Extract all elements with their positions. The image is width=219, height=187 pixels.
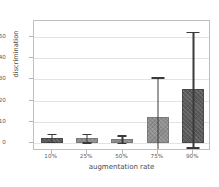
errorbar-cap-bottom-50: [118, 143, 127, 144]
y-tick-label-50: 50: [0, 33, 6, 39]
y-tick-label-10: 10: [0, 118, 6, 124]
plot-area: [33, 20, 210, 150]
y-tick-label-20: 20: [0, 97, 6, 103]
bar-group-50: [105, 21, 140, 149]
bar-group-90: [176, 21, 210, 149]
x-tick-label-90: 90%: [170, 153, 214, 159]
bar-group-10: [34, 21, 69, 149]
errorbar-cap-bottom-10: [47, 142, 56, 143]
bar-group-25: [69, 21, 104, 149]
bar-group-75: [140, 21, 175, 149]
errorbar-cap-top-25: [83, 134, 92, 135]
errorbar-cap-bottom-90: [187, 147, 200, 148]
errorbar-line-90: [193, 32, 194, 148]
errorbar-cap-top-50: [118, 135, 127, 136]
errorbar-cap-top-10: [47, 134, 56, 135]
errorbar-cap-bottom-25: [83, 142, 92, 143]
y-tick-label-40: 40: [0, 54, 6, 60]
x-axis-label: augmentation rate: [33, 163, 210, 171]
y-tick-label-0: 0: [0, 139, 6, 145]
errorbar-cap-top-75: [151, 77, 164, 78]
errorbar-line-75: [157, 77, 158, 150]
y-tick-label-30: 30: [0, 75, 6, 81]
chart-figure: discrimination 0 10 20 30 40 50: [0, 0, 219, 187]
y-axis-label: discrimination: [12, 4, 20, 104]
errorbar-cap-top-90: [187, 32, 200, 33]
